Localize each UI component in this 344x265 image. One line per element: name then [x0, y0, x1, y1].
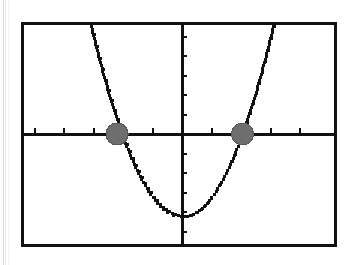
x-axis-tick: [299, 128, 301, 134]
curve-pixel: [91, 31, 94, 34]
curve-pixel: [108, 94, 111, 97]
curve-pixel: [146, 187, 149, 190]
curve-pixel: [103, 76, 106, 79]
curve-pixel: [162, 208, 165, 211]
curve-pixel: [94, 40, 97, 43]
curve-pixel: [114, 112, 117, 115]
curve-pixel: [208, 199, 211, 202]
x-axis: [24, 133, 334, 136]
curve-pixel: [268, 43, 271, 46]
curve-pixel: [222, 178, 225, 181]
curve-pixel: [152, 196, 155, 199]
curve-pixel: [149, 193, 152, 196]
scan-artifact-line-2: [5, 0, 6, 265]
curve-pixel: [154, 199, 157, 202]
curve-pixel: [100, 64, 103, 67]
scan-artifact-line-1: [3, 0, 4, 265]
x-axis-tick: [63, 128, 65, 134]
curve-pixel: [210, 196, 213, 199]
curve-pixel: [196, 211, 199, 214]
curve-pixel: [156, 202, 159, 205]
curve-pixel: [265, 52, 268, 55]
curve-pixel: [92, 34, 95, 37]
y-axis-tick: [181, 231, 187, 233]
curve-pixel: [233, 154, 236, 157]
curve-pixel: [234, 151, 237, 154]
curve-pixel: [254, 94, 257, 97]
calculator-screenshot: y = x^2 - 4: [0, 0, 344, 265]
curve-pixel: [111, 103, 114, 106]
curve-pixel: [94, 43, 97, 46]
curve-pixel: [253, 97, 256, 100]
curve-pixel: [246, 118, 249, 121]
graph-svg: [24, 25, 334, 244]
curve-pixel: [256, 88, 259, 91]
curve-pixel: [213, 193, 216, 196]
curve-pixel: [215, 190, 218, 193]
curve-pixel: [180, 215, 183, 218]
x-axis-tick: [270, 128, 272, 134]
curve-pixel: [225, 172, 228, 175]
curve-pixel: [218, 184, 221, 187]
curve-pixel: [267, 46, 270, 49]
x-axis-tick: [152, 128, 154, 134]
curve-pixel: [257, 82, 260, 85]
curve-pixel: [93, 37, 96, 40]
x-axis-tick: [93, 128, 95, 134]
curve-pixel: [101, 70, 104, 73]
graph-plot-area[interactable]: [24, 25, 334, 244]
curve-pixel: [269, 37, 272, 40]
curve-pixel: [203, 205, 206, 208]
curve-pixel: [223, 175, 226, 178]
curve-pixel: [235, 148, 238, 151]
x-axis-tick: [211, 128, 213, 134]
curve-pixel: [259, 76, 262, 79]
curve-pixel: [115, 115, 118, 118]
curve-pixel: [260, 73, 263, 76]
y-axis-tick: [181, 172, 187, 174]
curve-pixel: [106, 88, 109, 91]
curve-pixel: [206, 202, 209, 205]
curve-pixel: [132, 160, 135, 163]
calculator-screen-frame: [21, 22, 337, 247]
curve-pixel: [139, 175, 142, 178]
curve-pixel: [229, 163, 232, 166]
curve-pixel: [125, 145, 128, 148]
axes-group: [24, 25, 334, 244]
curve-pixel: [262, 64, 265, 67]
curve-pixel: [256, 85, 259, 88]
curve-pixel: [237, 145, 240, 148]
curve-pixel: [101, 67, 104, 70]
curve-pixel: [190, 214, 193, 217]
curve-pixel: [105, 82, 108, 85]
curve-pixel: [261, 67, 264, 70]
x-axis-tick: [34, 128, 36, 134]
curve-pixel: [159, 205, 162, 208]
curve-pixel: [200, 208, 203, 211]
curve-pixel: [133, 163, 136, 166]
y-axis-tick: [181, 192, 187, 194]
y-axis-tick: [181, 114, 187, 116]
curve-pixel: [134, 166, 137, 169]
left-root-marker[interactable]: [106, 123, 128, 145]
curve-pixel: [129, 154, 132, 157]
curve-pixel: [99, 61, 102, 64]
curve-pixel: [166, 211, 169, 214]
curve-pixel: [264, 58, 267, 61]
curve-pixel: [249, 109, 252, 112]
scan-artifact-line-3: [8, 0, 9, 265]
curve-pixel: [252, 100, 255, 103]
curve-pixel: [247, 115, 250, 118]
curve-pixel: [140, 178, 143, 181]
right-root-marker[interactable]: [231, 123, 253, 145]
curve-pixel: [265, 55, 268, 58]
curve-pixel: [97, 52, 100, 55]
curve-pixel: [220, 181, 223, 184]
curve-pixel: [172, 214, 175, 217]
curve-pixel: [147, 190, 150, 193]
curve-pixel: [128, 151, 131, 154]
curve-pixel: [106, 85, 109, 88]
curve-pixel: [261, 70, 264, 73]
curve-pixel: [232, 157, 235, 160]
curve-pixel: [250, 106, 253, 109]
